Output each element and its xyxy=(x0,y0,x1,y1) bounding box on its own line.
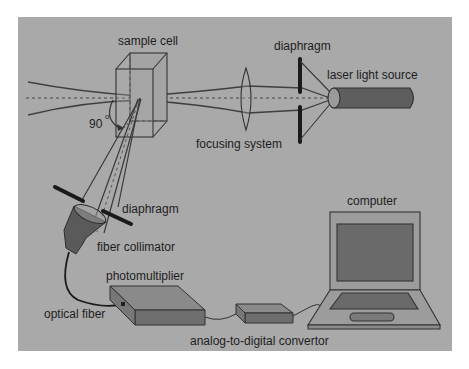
label-focusing-system: focusing system xyxy=(196,137,282,151)
label-sample-cell: sample cell xyxy=(118,34,178,48)
label-adc: analog-to-digital convertor xyxy=(190,334,329,348)
label-computer: computer xyxy=(347,194,397,208)
label-angle-value: 90 xyxy=(89,117,103,131)
label-fiber-collimator: fiber collimator xyxy=(97,240,175,254)
label-diaphragm-bottom: diaphragm xyxy=(122,202,179,216)
label-photomultiplier: photomultiplier xyxy=(106,269,184,283)
label-diaphragm-top: diaphragm xyxy=(274,39,331,53)
laser-source-icon xyxy=(328,88,414,108)
label-angle: 90 xyxy=(89,117,103,131)
label-angle-degree: o xyxy=(105,112,110,121)
label-optical-fiber: optical fiber xyxy=(44,307,105,321)
label-laser-light-source: laser light source xyxy=(327,68,418,82)
light-scattering-diagram: sample cell diaphragm laser light source… xyxy=(0,0,469,369)
adc-icon xyxy=(236,304,293,323)
